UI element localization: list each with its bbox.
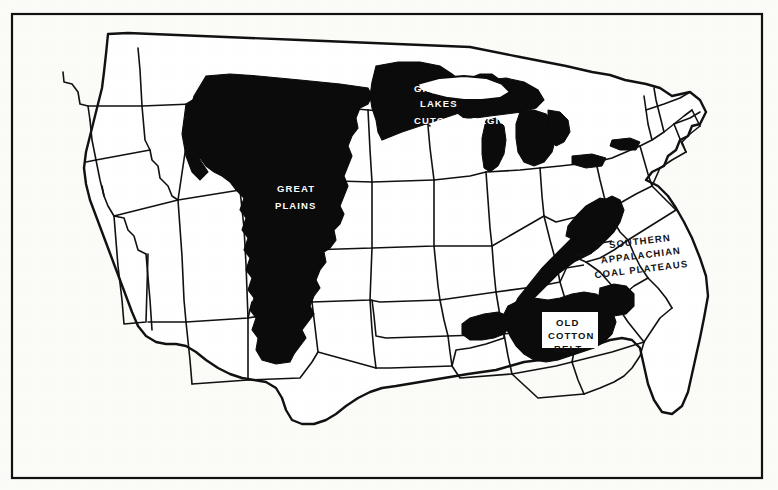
us-problem-regions-map: GREAT LAKES CUTOVER REGION GREAT PLAINS … <box>0 0 778 490</box>
label-line: BELT <box>554 343 583 354</box>
label-line: COTTON <box>548 330 595 341</box>
label-line: GREAT <box>277 183 315 194</box>
label-line: OLD <box>556 317 579 328</box>
label-line: PLAINS <box>275 200 316 211</box>
map-canvas: GREAT LAKES CUTOVER REGION GREAT PLAINS … <box>0 0 778 490</box>
lake-erie <box>572 154 606 168</box>
label-line: LAKES <box>420 98 458 109</box>
lake-ontario <box>610 138 640 150</box>
label-line: CUTOVER REGION <box>414 115 516 126</box>
old-cotton-belt-carolina-lobe <box>598 284 634 316</box>
label-line: GREAT <box>414 83 452 94</box>
